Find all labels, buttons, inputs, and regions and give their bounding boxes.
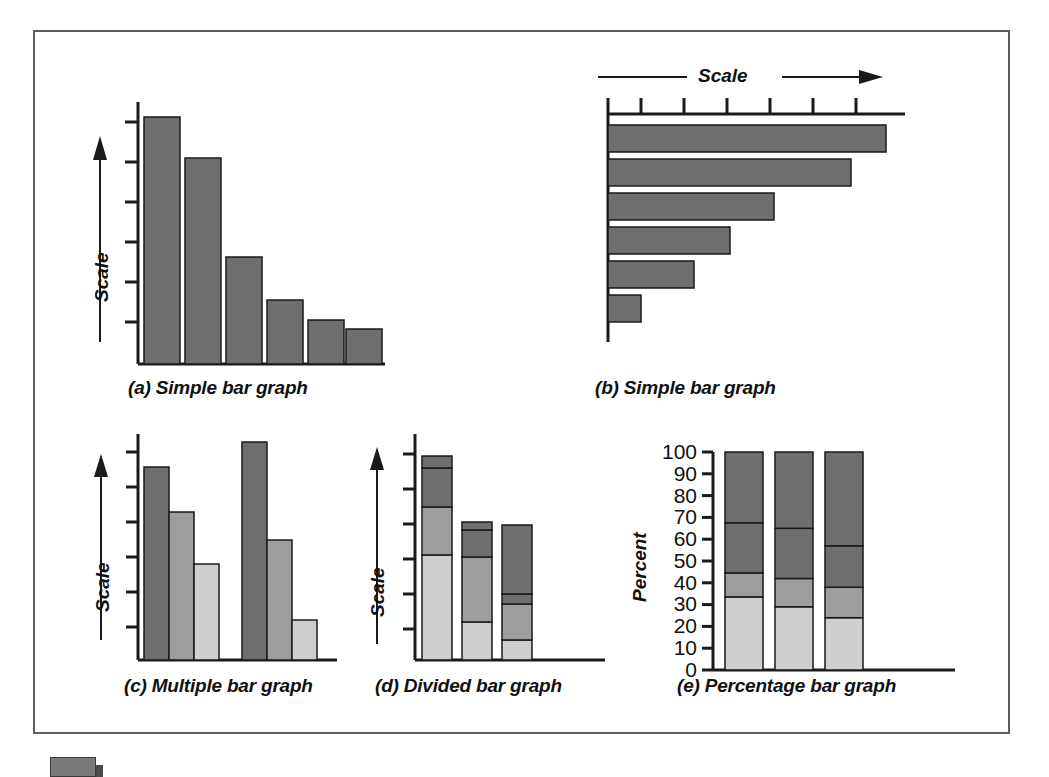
panel-e-tick-10: 10 (647, 636, 697, 660)
panel-b-plot (565, 52, 985, 382)
segment (502, 525, 532, 594)
bar (608, 227, 730, 254)
panel-e-tick-30: 30 (647, 592, 697, 616)
segment (422, 507, 452, 555)
legend-color-swatch (50, 757, 96, 777)
panel-e-bar-3 (825, 452, 863, 670)
segment (725, 452, 763, 523)
bar (267, 540, 292, 660)
bar (308, 320, 344, 364)
panel-c-axis-label: Scale (92, 562, 114, 612)
segment (775, 607, 813, 670)
segment (462, 622, 492, 660)
panel-e-bar-2 (775, 452, 813, 670)
segment (462, 557, 492, 622)
segment (422, 468, 452, 507)
panel-a-scale-arrow (93, 136, 107, 342)
panel-a-axis-label: Scale (91, 252, 113, 302)
bar (267, 300, 303, 364)
segment (725, 523, 763, 573)
figure-page: Scale (a) Simple bar graph (0, 0, 1049, 777)
bar (292, 620, 317, 660)
panel-c-caption: (c) Multiple bar graph (124, 675, 313, 697)
bar (144, 117, 180, 364)
bar (608, 159, 851, 186)
bar (169, 512, 194, 660)
segment (462, 530, 492, 557)
bar (608, 193, 774, 220)
segment (825, 618, 863, 670)
panel-d-y-ticks (403, 454, 415, 629)
bar (608, 261, 694, 288)
segment (725, 597, 763, 670)
segment (422, 456, 452, 468)
panel-e-caption: (e) Percentage bar graph (677, 675, 896, 697)
panel-c-y-ticks (126, 452, 138, 627)
panel-d-bar-1 (422, 456, 452, 660)
segment (775, 528, 813, 578)
panel-c-group-2 (242, 442, 317, 660)
panel-d-divided-bar-graph: Scale (d) Divided bar graph (325, 412, 625, 712)
bar (194, 564, 219, 660)
panel-e-tick-90: 90 (647, 462, 697, 486)
panel-a-caption: (a) Simple bar graph (128, 377, 308, 399)
panel-a-y-ticks (125, 122, 138, 322)
panel-e-y-ticks (702, 452, 713, 670)
panel-d-bar-2 (462, 522, 492, 660)
bar (346, 329, 382, 364)
segment (775, 452, 813, 528)
panel-e-tick-100: 100 (647, 440, 697, 464)
bar (226, 257, 262, 364)
segment (502, 640, 532, 660)
panel-d-caption: (d) Divided bar graph (375, 675, 562, 697)
bar (608, 125, 886, 152)
panel-c-group-1 (144, 467, 219, 660)
panel-e-axis-label: Percent (629, 532, 651, 602)
bar (144, 467, 169, 660)
segment (775, 579, 813, 607)
panel-a-plot (65, 52, 395, 382)
panel-e-tick-20: 20 (647, 614, 697, 638)
panel-b-axis-label: Scale (698, 65, 748, 87)
panel-c-scale-arrow (94, 454, 108, 640)
bar (185, 158, 221, 364)
panel-b-bars (608, 125, 886, 322)
panel-e-percentage-bar-graph: 100 90 80 70 60 50 40 30 20 10 0 Percent… (625, 412, 1005, 712)
panel-b-caption: (b) Simple bar graph (595, 377, 776, 399)
panel-a-bars (144, 117, 382, 364)
panel-e-tick-60: 60 (647, 527, 697, 551)
panel-c-plot (65, 412, 365, 692)
panel-e-tick-50: 50 (647, 549, 697, 573)
segment (725, 573, 763, 597)
segment (462, 522, 492, 530)
panel-a-simple-bar-graph: Scale (a) Simple bar graph (65, 52, 395, 392)
segment (825, 546, 863, 587)
bar (242, 442, 267, 660)
panel-e-tick-70: 70 (647, 505, 697, 529)
bar (608, 295, 641, 322)
panel-b-simple-bar-graph: Scale (b) Simple bar graph (565, 52, 985, 392)
figure-frame: Scale (a) Simple bar graph (33, 30, 1010, 734)
segment (502, 604, 532, 640)
segment (825, 452, 863, 546)
segment (825, 587, 863, 618)
segment (502, 594, 532, 604)
segment (422, 555, 452, 660)
panel-c-multiple-bar-graph: Scale (c) Multiple bar graph (65, 412, 365, 712)
panel-e-bar-1 (725, 452, 763, 670)
panel-d-axis-label: Scale (367, 567, 389, 617)
panel-d-bar-3 (502, 525, 532, 660)
panel-b-x-ticks (641, 98, 856, 114)
panel-d-plot (325, 412, 625, 692)
legend-swatch-tab-icon (96, 765, 103, 777)
